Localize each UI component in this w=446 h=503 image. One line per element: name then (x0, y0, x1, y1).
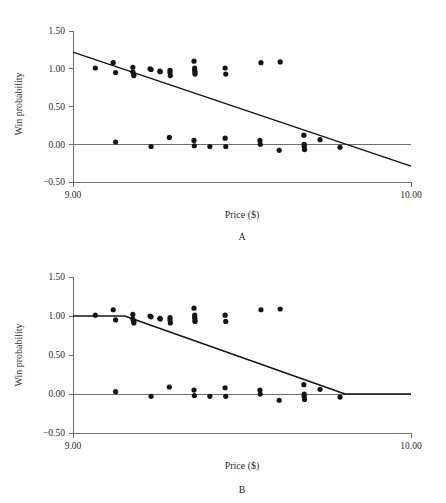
data-point (223, 394, 228, 399)
fit-line (73, 52, 411, 166)
data-point (258, 307, 263, 312)
data-point (317, 137, 322, 142)
data-point (207, 144, 212, 149)
data-point (207, 394, 212, 399)
data-point (301, 133, 306, 138)
data-point (302, 397, 307, 402)
x-tick-label: 10.00 (400, 441, 422, 451)
x-tick-label: 9.00 (65, 441, 82, 451)
data-point (223, 65, 228, 70)
data-point (277, 398, 282, 403)
data-point (337, 145, 342, 150)
data-point (148, 314, 153, 319)
data-point (278, 306, 283, 311)
data-point (191, 59, 196, 64)
y-tick-label: 0.50 (48, 102, 65, 112)
figure-container: −0.500.000.501.001.509.0010.00Price ($)W… (0, 0, 446, 503)
data-point (148, 144, 153, 149)
data-point (317, 387, 322, 392)
y-tick-label: 1.00 (48, 64, 65, 74)
data-point (191, 306, 196, 311)
y-tick-label: 0.50 (48, 350, 65, 360)
data-point (113, 389, 118, 394)
fit-line (73, 316, 411, 394)
data-point (113, 317, 118, 322)
data-point (302, 147, 307, 152)
data-point (158, 69, 163, 74)
data-point (113, 139, 118, 144)
data-point (223, 136, 228, 141)
x-tick-label: 10.00 (400, 190, 422, 200)
scatter-plot-b: −0.500.000.501.001.509.0010.00Price ($)W… (0, 250, 446, 503)
data-point (337, 395, 342, 400)
chart-panel-a: −0.500.000.501.001.509.0010.00Price ($)W… (0, 0, 446, 250)
data-point (111, 307, 116, 312)
data-point (130, 312, 135, 317)
data-point (258, 60, 263, 65)
data-point (111, 60, 116, 65)
x-axis-title: Price ($) (225, 209, 260, 221)
data-point (223, 71, 228, 76)
data-point (258, 391, 263, 396)
data-point (192, 319, 197, 324)
y-axis-title: Win probability (13, 72, 24, 135)
data-point (158, 317, 163, 322)
y-tick-label: 1.50 (48, 26, 65, 36)
x-axis-title: Price ($) (225, 460, 260, 472)
y-tick-label: −0.50 (43, 428, 65, 438)
data-point (168, 320, 173, 325)
y-tick-label: 1.50 (48, 272, 65, 282)
data-point (223, 385, 228, 390)
data-point (192, 143, 197, 148)
y-tick-label: −0.50 (43, 177, 65, 187)
data-point (148, 67, 153, 72)
data-point (131, 320, 136, 325)
data-point (168, 73, 173, 78)
y-tick-label: 0.00 (48, 389, 65, 399)
data-point (277, 148, 282, 153)
data-point (167, 135, 172, 140)
data-point (130, 65, 135, 70)
data-point (223, 319, 228, 324)
data-point (223, 144, 228, 149)
data-point (278, 59, 283, 64)
scatter-plot-a: −0.500.000.501.001.509.0010.00Price ($)W… (0, 0, 446, 250)
data-point (223, 313, 228, 318)
y-tick-label: 1.00 (48, 311, 65, 321)
data-point (192, 393, 197, 398)
panel-letter: B (239, 484, 246, 495)
data-point (113, 70, 118, 75)
data-point (191, 138, 196, 143)
chart-panel-b: −0.500.000.501.001.509.0010.00Price ($)W… (0, 250, 446, 503)
data-point (167, 384, 172, 389)
data-point (301, 382, 306, 387)
data-point (131, 73, 136, 78)
data-point (192, 71, 197, 76)
data-point (93, 65, 98, 70)
data-point (258, 142, 263, 147)
data-point (148, 394, 153, 399)
y-axis-title: Win probability (13, 323, 24, 386)
data-point (191, 388, 196, 393)
data-point (93, 313, 98, 318)
x-tick-label: 9.00 (65, 190, 82, 200)
panel-letter: A (238, 231, 246, 242)
y-tick-label: 0.00 (48, 140, 65, 150)
